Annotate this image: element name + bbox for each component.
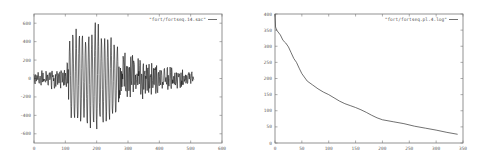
right-y-tick-label: 50 xyxy=(267,124,273,129)
left-y-tick-label: -400 xyxy=(20,113,31,118)
waveform-series-line xyxy=(34,23,194,129)
right-x-tick-label: 200 xyxy=(378,146,386,151)
right-x-tick-label: 100 xyxy=(325,146,333,151)
right-y-tick-label: 0 xyxy=(269,141,272,146)
right-y-tick-label: 150 xyxy=(264,92,272,97)
right-y-tick-label: 100 xyxy=(264,108,272,113)
left-x-tick-label: 100 xyxy=(61,146,69,151)
left-x-tick-label: 200 xyxy=(93,146,101,151)
decay-series-line xyxy=(275,14,458,134)
left-x-tick-label: 400 xyxy=(155,146,163,151)
waveform-chart: 01002003004005006006004002000-200-400-60… xyxy=(0,0,245,159)
left-y-tick-label: 600 xyxy=(23,21,31,26)
left-x-tick-label: 500 xyxy=(187,146,195,151)
right-x-tick-label: 0 xyxy=(274,146,277,151)
right-x-tick-label: 300 xyxy=(432,146,440,151)
right-legend-label: "fort/fortseq.pl.4.log" xyxy=(385,17,447,22)
right-y-tick-label: 400 xyxy=(264,12,272,17)
waveform-plot: 01002003004005006006004002000-200-400-60… xyxy=(0,0,245,159)
left-y-tick-label: 0 xyxy=(28,76,31,81)
right-x-tick-label: 350 xyxy=(459,146,467,151)
left-x-tick-label: 600 xyxy=(218,146,226,151)
left-x-tick-label: 300 xyxy=(124,146,132,151)
left-x-tick-label: 0 xyxy=(33,146,36,151)
left-y-tick-label: 200 xyxy=(23,58,31,63)
right-y-tick-label: 250 xyxy=(264,60,272,65)
decay-curve-chart: 0501001502002503003500501001502002503003… xyxy=(245,0,489,159)
right-x-tick-label: 150 xyxy=(352,146,360,151)
left-y-tick-label: -600 xyxy=(20,131,31,136)
right-x-tick-label: 50 xyxy=(299,146,305,151)
decay-curve-plot: 0501001502002503003500501001502002503003… xyxy=(245,0,489,159)
left-legend-label: "fort/fortseq.14.sac" xyxy=(149,17,206,22)
right-y-tick-label: 300 xyxy=(264,44,272,49)
left-y-tick-label: -200 xyxy=(20,94,31,99)
right-x-tick-label: 250 xyxy=(405,146,413,151)
right-y-tick-label: 350 xyxy=(264,28,272,33)
left-y-tick-label: 400 xyxy=(23,39,31,44)
right-plot-frame xyxy=(275,14,463,143)
right-y-tick-label: 200 xyxy=(264,76,272,81)
